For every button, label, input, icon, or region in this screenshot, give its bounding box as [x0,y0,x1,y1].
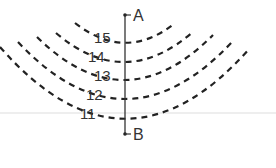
contour-diagram: A B 15 14 13 12 11 [0,0,276,168]
contour-label-11: 11 [80,106,96,121]
contour-label-15: 15 [94,30,111,45]
contour-label-12: 12 [86,87,103,102]
contour-label-13: 13 [94,68,111,83]
point-b-label: B [133,127,144,143]
point-a-label: A [133,8,144,24]
contour-label-14: 14 [88,49,105,64]
